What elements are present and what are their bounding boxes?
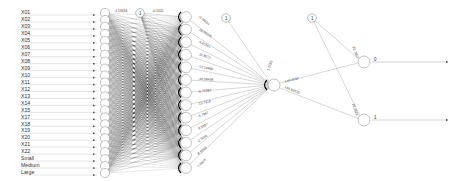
arrow-head-icon	[93, 63, 95, 65]
bias-weight-label: 26.2823	[351, 103, 359, 116]
arrow-head-icon	[93, 77, 95, 79]
edges-layer	[20, 12, 448, 176]
weight-label: -149.4034	[283, 76, 299, 84]
arrow-head-icon	[93, 49, 95, 51]
labels-layer: X01X02X03X04X05X06X07X08X09X10X11X12X13X…	[21, 9, 377, 175]
weight-label: -10.7418	[197, 99, 211, 106]
arrow-head-icon	[93, 84, 95, 86]
arrow-head-icon	[93, 146, 95, 148]
input-label: X22	[21, 148, 30, 154]
hidden2-node	[181, 49, 192, 60]
input-label: Small	[21, 155, 34, 161]
weight-label: -0.1325	[152, 9, 164, 13]
hidden3-node	[268, 79, 280, 91]
weight-label: -10.56459	[198, 77, 214, 82]
weight-label: 148.93516	[284, 85, 300, 95]
hidden2-node	[181, 75, 192, 86]
input-label: X07	[21, 51, 30, 57]
arrow-head-icon	[93, 56, 95, 58]
arrow-head-icon	[93, 160, 95, 162]
weight-label: -6.74287	[198, 88, 212, 93]
weight-label: -1.13416	[114, 9, 127, 13]
input-label: X04	[21, 30, 30, 36]
hidden2-node	[181, 87, 192, 98]
input-label: X21	[21, 141, 30, 147]
input-label: X10	[21, 72, 30, 78]
arrow-head-icon	[93, 35, 95, 37]
bias-weight-label: -25.7857	[351, 45, 359, 59]
arrow-head-icon	[93, 119, 95, 121]
input-label: X17	[21, 114, 30, 120]
arrow-head-icon	[93, 70, 95, 72]
input-label: X19	[21, 127, 30, 133]
output-node	[358, 56, 370, 68]
output-label: 1	[374, 115, 377, 120]
hidden2-node	[181, 100, 192, 111]
arrow-head-icon	[93, 98, 95, 100]
weight-label: -3.78634	[197, 15, 210, 27]
input-label: X08	[21, 58, 30, 64]
weight-label: -11.8572	[198, 52, 212, 60]
input-label: X18	[21, 121, 30, 127]
arrow-head-icon	[93, 21, 95, 23]
input-label: X09	[21, 65, 30, 71]
input-label: Medium	[21, 162, 39, 168]
arrow-head-icon	[93, 112, 95, 114]
input-label: X12	[21, 86, 30, 92]
weight-label: -4.41551	[198, 39, 212, 49]
hidden2-node	[181, 12, 192, 23]
arrow-head-icon	[93, 28, 95, 30]
hidden2-node	[181, 62, 192, 73]
input-label: Large	[21, 169, 34, 175]
arrow-head-icon	[93, 174, 95, 176]
bias-weight-label: 1.1782	[266, 60, 273, 71]
input-label: X14	[21, 100, 30, 106]
arrow-head-icon	[93, 42, 95, 44]
input-label: X05	[21, 37, 30, 43]
hidden2-node	[181, 37, 192, 48]
hidden2-node	[181, 150, 192, 161]
weight-label: -10.66225	[197, 27, 212, 39]
hidden2-node	[181, 24, 192, 35]
output-label: 0	[374, 57, 377, 62]
weight-label: -8.6063	[196, 146, 208, 156]
input-label: X06	[21, 44, 30, 50]
hidden2-node	[181, 137, 192, 148]
hidden1-node	[100, 168, 109, 177]
output-node	[358, 114, 370, 126]
arrow-head-icon	[93, 14, 95, 16]
neural-network-diagram: X01X02X03X04X05X06X07X08X09X10X11X12X13X…	[0, 0, 464, 181]
arrow-head-icon	[93, 167, 95, 169]
weight-label: -3.7967	[197, 111, 209, 119]
hidden2-node	[181, 125, 192, 136]
arrow-head-icon	[93, 105, 95, 107]
arrow-head-icon	[93, 133, 95, 135]
hidden2-node	[181, 112, 192, 123]
weight-label: -7.9928	[196, 158, 207, 169]
input-label: X13	[21, 93, 30, 99]
arrow-head-icon	[93, 140, 95, 142]
hidden2-node	[181, 163, 192, 174]
input-label: X01	[21, 9, 30, 15]
arrow-head-icon	[93, 91, 95, 93]
input-label: X03	[21, 23, 30, 29]
input-label: X02	[21, 16, 30, 22]
arrow-head-icon	[93, 153, 95, 155]
input-label: X20	[21, 134, 30, 140]
arrow-head-icon	[446, 61, 448, 63]
input-label: X11	[21, 79, 30, 85]
input-label: X15	[21, 107, 30, 113]
arrow-head-icon	[93, 126, 95, 128]
arrow-head-icon	[446, 119, 448, 121]
